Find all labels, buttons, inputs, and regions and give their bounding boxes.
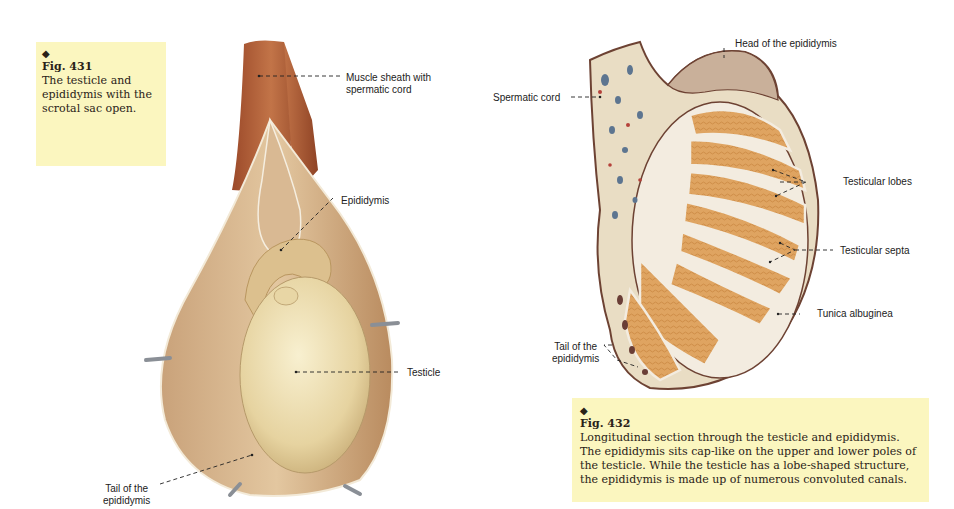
label-testicular-lobes: Testicular lobes <box>843 176 912 188</box>
label-head-of-epididymis: Head of the epididymis <box>735 38 837 50</box>
label-muscle-sheath: Muscle sheath with spermatic cord <box>346 72 431 96</box>
figure-432-illustration <box>571 42 833 389</box>
label-tunica-albuginea: Tunica albuginea <box>817 308 893 320</box>
label-tail-of-epididymis-431: Tail of the epididymis <box>103 483 150 507</box>
label-spermatic-cord: Spermatic cord <box>493 92 560 104</box>
label-tail-of-epididymis-432: Tail of the epididymis <box>552 341 599 365</box>
anatomical-illustrations <box>0 0 954 509</box>
label-epididymis: Epididymis <box>341 195 389 207</box>
label-testicle: Testicle <box>407 367 440 379</box>
label-testicular-septa: Testicular septa <box>840 245 909 257</box>
figure-431-illustration <box>146 40 400 496</box>
